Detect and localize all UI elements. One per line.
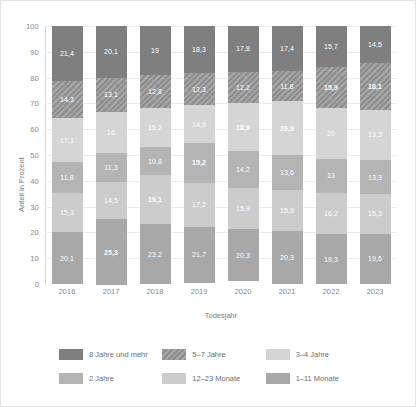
y-axis-tick-label: 100 bbox=[26, 22, 39, 31]
legend-label: 2 Jahre bbox=[89, 374, 114, 383]
bar-segment[interactable]: 12,2 bbox=[228, 72, 259, 103]
bar-segment[interactable]: 14,9 bbox=[184, 105, 215, 143]
y-axis-tick-label: 60 bbox=[30, 125, 39, 134]
bar-segment[interactable]: 15,9 bbox=[228, 188, 259, 229]
x-axis-title: Todesjahr bbox=[45, 311, 397, 320]
bar-segment[interactable]: 19,3 bbox=[316, 234, 347, 284]
legend-item[interactable]: 3–4 Jahre bbox=[266, 342, 369, 366]
bar-segment[interactable]: 11,3 bbox=[96, 153, 127, 182]
bar-segment-value: 15,9 bbox=[280, 207, 294, 214]
bar-segment-value: 12,8 bbox=[148, 88, 162, 95]
bar-segment[interactable]: 13,6 bbox=[272, 155, 303, 190]
legend-label: 1–11 Monate bbox=[296, 374, 339, 383]
bar-segment-value: 25,3 bbox=[104, 249, 118, 256]
bar-segment-value: 14,5 bbox=[368, 41, 382, 48]
bar-segment[interactable]: 20 bbox=[316, 108, 347, 160]
bar-segment-value: 19 bbox=[151, 47, 159, 54]
plot-area: 21,414,317,111,815,320,120,113,11611,314… bbox=[45, 26, 397, 284]
bar-segment[interactable]: 20,1 bbox=[96, 26, 127, 78]
bar-segment[interactable]: 18,6 bbox=[228, 103, 259, 151]
bar-segment[interactable]: 13 bbox=[316, 159, 347, 193]
bar-segment[interactable]: 19,1 bbox=[140, 175, 171, 224]
bar-segment[interactable]: 13,1 bbox=[96, 78, 127, 112]
bar-group[interactable]: 18,312,314,915,217,221,7 bbox=[184, 26, 215, 284]
bar-segment[interactable]: 20,3 bbox=[228, 229, 259, 281]
bar-segment[interactable]: 14,2 bbox=[228, 151, 259, 188]
legend-item[interactable]: 2 Jahre bbox=[59, 366, 162, 390]
bar-segment[interactable]: 10,8 bbox=[140, 147, 171, 175]
bar-segment[interactable]: 11,8 bbox=[272, 71, 303, 101]
bar-segment[interactable]: 17,4 bbox=[272, 26, 303, 71]
legend-item[interactable]: 8 Jahre und mehr bbox=[59, 342, 162, 366]
stacked-bar[interactable]: 18,312,314,915,217,221,7 bbox=[184, 26, 215, 284]
bar-segment[interactable]: 23,2 bbox=[140, 224, 171, 284]
bar-segment[interactable]: 14,3 bbox=[52, 81, 83, 118]
stacked-bar[interactable]: 1912,815,210,819,123,2 bbox=[140, 26, 171, 284]
bar-segment[interactable]: 17,8 bbox=[228, 26, 259, 72]
bar-group[interactable]: 15,715,9201316,219,3 bbox=[316, 26, 347, 284]
stacked-bar[interactable]: 17,411,820,913,615,920,3 bbox=[272, 26, 303, 284]
y-axis-title: Anteil in Prozent bbox=[17, 125, 26, 245]
bar-segment[interactable]: 19,6 bbox=[360, 234, 391, 285]
bar-group[interactable]: 17,812,218,614,215,920,3 bbox=[228, 26, 259, 284]
bar-segment[interactable]: 20,3 bbox=[272, 231, 303, 283]
bar-segment[interactable]: 17,2 bbox=[184, 183, 215, 227]
bar-segment[interactable]: 20,1 bbox=[52, 232, 83, 284]
bar-segment[interactable]: 17,1 bbox=[52, 118, 83, 162]
bar-group[interactable]: 21,414,317,111,815,320,1 bbox=[52, 26, 83, 284]
bar-segment[interactable]: 15,2 bbox=[184, 143, 215, 182]
bar-segment[interactable]: 21,7 bbox=[184, 227, 215, 283]
bar-group[interactable]: 1912,815,210,819,123,2 bbox=[140, 26, 171, 284]
y-axis-tick-label: 40 bbox=[30, 176, 39, 185]
stacked-bar[interactable]: 14,518,119,313,315,319,6 bbox=[360, 26, 391, 284]
x-axis-tick-label: 2017 bbox=[103, 287, 120, 296]
legend-item[interactable]: 5–7 Jahre bbox=[162, 342, 265, 366]
bar-segment[interactable]: 15,3 bbox=[52, 193, 83, 232]
bar-segment-value: 20,1 bbox=[104, 48, 118, 55]
bar-segment[interactable]: 16,2 bbox=[316, 193, 347, 235]
bar-segment-value: 18,1 bbox=[368, 83, 382, 90]
bar-segment[interactable]: 21,4 bbox=[52, 26, 83, 81]
bar-segment[interactable]: 14,5 bbox=[96, 182, 127, 219]
y-axis-tick-label: 70 bbox=[30, 99, 39, 108]
bar-group[interactable]: 20,113,11611,314,525,3 bbox=[96, 26, 127, 284]
bar-segment[interactable]: 15,3 bbox=[360, 194, 391, 233]
bar-group[interactable]: 17,411,820,913,615,920,3 bbox=[272, 26, 303, 284]
legend-swatch bbox=[162, 349, 186, 360]
stacked-bar[interactable]: 17,812,218,614,215,920,3 bbox=[228, 26, 259, 284]
bar-segment[interactable]: 15,9 bbox=[272, 190, 303, 231]
bar-segment[interactable]: 18,3 bbox=[184, 26, 215, 73]
bar-segment[interactable]: 15,7 bbox=[316, 26, 347, 67]
bar-segment[interactable]: 19,3 bbox=[360, 110, 391, 160]
legend-swatch bbox=[59, 373, 83, 384]
stacked-bar[interactable]: 20,113,11611,314,525,3 bbox=[96, 26, 127, 284]
bar-segment[interactable]: 12,8 bbox=[140, 75, 171, 108]
bar-segment[interactable]: 18,1 bbox=[360, 63, 391, 110]
y-axis-tick-label: 10 bbox=[30, 254, 39, 263]
stacked-bar[interactable]: 21,414,317,111,815,320,1 bbox=[52, 26, 83, 284]
bar-segment[interactable]: 12,3 bbox=[184, 73, 215, 105]
bar-segment[interactable]: 19 bbox=[140, 26, 171, 75]
bar-segment[interactable]: 16 bbox=[96, 112, 127, 153]
bar-segment-value: 16,2 bbox=[324, 210, 338, 217]
bar-segment-value: 17,8 bbox=[236, 45, 250, 52]
bar-segment-value: 15,9 bbox=[324, 84, 338, 91]
bar-segment[interactable]: 20,9 bbox=[272, 101, 303, 155]
bar-segment-value: 20,3 bbox=[236, 252, 250, 259]
bar-segment[interactable]: 13,3 bbox=[360, 160, 391, 194]
bar-segment[interactable]: 14,5 bbox=[360, 26, 391, 63]
bar-segment-value: 19,3 bbox=[368, 131, 382, 138]
bar-segment[interactable]: 15,2 bbox=[140, 108, 171, 147]
stacked-bar[interactable]: 15,715,9201316,219,3 bbox=[316, 26, 347, 284]
bar-group[interactable]: 14,518,119,313,315,319,6 bbox=[360, 26, 391, 284]
y-axis-tick-label: 80 bbox=[30, 73, 39, 82]
bar-segment[interactable]: 25,3 bbox=[96, 219, 127, 284]
bar-segment-value: 15,2 bbox=[192, 159, 206, 166]
legend-item[interactable]: 1–11 Monate bbox=[266, 366, 369, 390]
legend-item[interactable]: 12–23 Monate bbox=[162, 366, 265, 390]
bar-segment[interactable]: 11,8 bbox=[52, 162, 83, 192]
y-axis-tick-label: 0 bbox=[35, 280, 39, 289]
bar-segment-value: 12,3 bbox=[192, 86, 206, 93]
bar-segment-value: 13,1 bbox=[104, 91, 118, 98]
bar-segment[interactable]: 15,9 bbox=[316, 67, 347, 108]
